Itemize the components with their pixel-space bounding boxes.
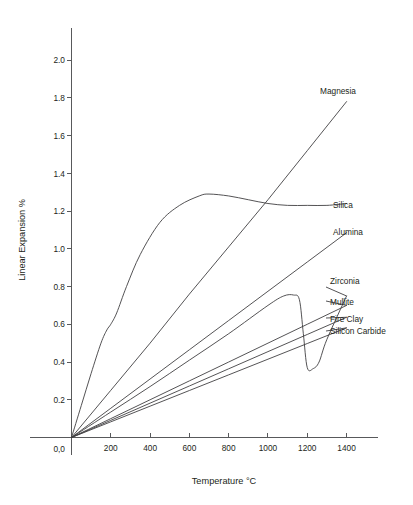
x-tick-label: 600: [182, 443, 196, 453]
x-tick-label: 400: [143, 443, 157, 453]
series-label-silica: Silica: [333, 200, 353, 210]
series-label-mullite: Mullite: [330, 297, 354, 307]
x-tick-label: 800: [222, 443, 236, 453]
y-tick-label: 1.2: [53, 206, 65, 216]
series-label-zirconia: Zirconia: [330, 276, 360, 286]
y-tick-label: 0.8: [53, 282, 65, 292]
series-label-fire-clay: Fire Clay: [330, 314, 364, 324]
linear-expansion-chart: 0.20.40.60.81.01.21.41.61.82.0 200400600…: [0, 0, 413, 505]
y-tick-label: 0.4: [53, 357, 65, 367]
y-tick-label: 1.0: [53, 244, 65, 254]
y-tick-label: 0.2: [53, 395, 65, 405]
y-tick-label: 1.6: [53, 131, 65, 141]
x-tick-label: 1200: [298, 443, 317, 453]
chart-container: 0.20.40.60.81.01.21.41.61.82.0 200400600…: [0, 0, 413, 505]
x-axis-title: Temperature °C: [192, 476, 257, 486]
origin-label: 0,0: [53, 444, 65, 454]
series-label-magnesia: Magnesia: [320, 86, 356, 96]
y-tick-label: 1.4: [53, 169, 65, 179]
series-label-alumina: Alumina: [333, 227, 363, 237]
x-tick-label: 200: [104, 443, 118, 453]
y-axis-title: Linear Expansion %: [17, 199, 27, 281]
x-tick-label: 1000: [259, 443, 278, 453]
x-tick-label: 1400: [337, 443, 356, 453]
series-label-silicon-carbide: Silicon Carbide: [330, 326, 386, 336]
y-tick-label: 0.6: [53, 319, 65, 329]
y-tick-label: 2.0: [53, 55, 65, 65]
y-tick-label: 1.8: [53, 93, 65, 103]
